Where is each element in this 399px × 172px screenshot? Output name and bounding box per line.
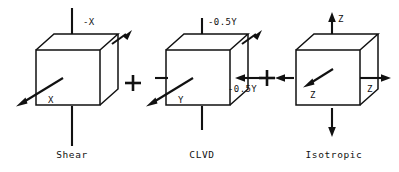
isotropic-bottom-arrow-head	[328, 127, 336, 137]
decomposition-diagram: -X X Shear	[0, 0, 399, 172]
isotropic-cube-front-face	[296, 50, 360, 105]
moment-tensor-decomposition-figure: -X X Shear	[0, 0, 399, 172]
isotropic-top-arrow-head	[328, 12, 336, 22]
shear-cube-front-face	[36, 50, 100, 105]
clvd-cube-front-face	[166, 50, 230, 105]
clvd-diagonal-arrow-head	[146, 98, 158, 107]
isotropic-caption: Isotropic	[306, 149, 363, 160]
shear-caption: Shear	[56, 149, 88, 160]
isotropic-left-arrow-head	[275, 74, 285, 82]
isotropic-diagonal-label: Z	[310, 90, 316, 100]
shear-top-label: -X	[83, 17, 95, 27]
plus-operator-1	[125, 75, 141, 91]
clvd-right-label: -0.5Y	[228, 84, 257, 94]
clvd-diagonal-label: Y	[178, 95, 184, 105]
panel-isotropic: Z Z Z Isotropic	[275, 12, 391, 160]
isotropic-top-label: Z	[338, 14, 344, 24]
isotropic-right-arrow-head	[381, 74, 391, 82]
clvd-caption: CLVD	[189, 149, 214, 160]
shear-diagonal-arrow-head	[16, 98, 28, 107]
shear-diagonal-label: X	[48, 95, 54, 105]
isotropic-right-label: Z	[367, 84, 373, 94]
panel-shear: -X X Shear	[16, 8, 132, 160]
plus-operator-2	[259, 70, 275, 86]
clvd-top-label: -0.5Y	[208, 17, 237, 27]
panel-clvd: -0.5Y -0.5Y Y CLVD	[146, 17, 262, 160]
